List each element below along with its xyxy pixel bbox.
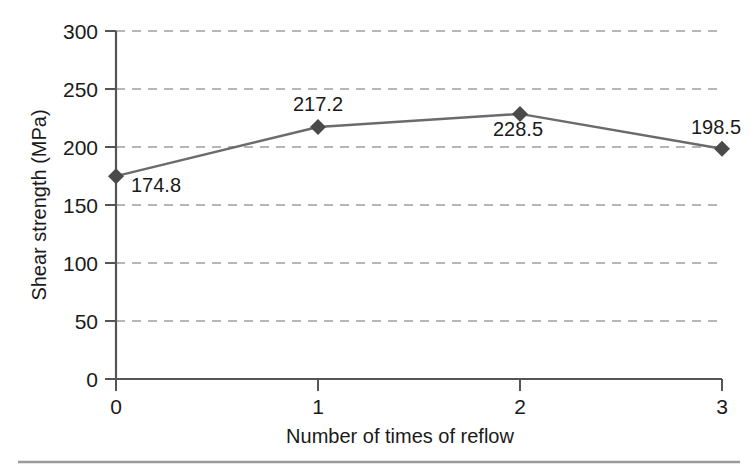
x-axis-title: Number of times of reflow bbox=[286, 425, 514, 447]
data-point-label-2: 228.5 bbox=[493, 118, 543, 140]
y-tick-label-0: 0 bbox=[86, 368, 98, 391]
data-point-label-1: 217.2 bbox=[293, 93, 343, 115]
line-chart: 300 250 200 150 100 50 0 0 1 2 3 174.8 2… bbox=[0, 0, 756, 473]
x-tick-label-1: 1 bbox=[312, 395, 324, 418]
chart-figure: 300 250 200 150 100 50 0 0 1 2 3 174.8 2… bbox=[0, 0, 756, 473]
y-tick-label-300: 300 bbox=[63, 20, 98, 43]
x-tick-label-0: 0 bbox=[110, 395, 122, 418]
y-tick-label-150: 150 bbox=[63, 194, 98, 217]
y-tick-label-200: 200 bbox=[63, 136, 98, 159]
y-tick-label-50: 50 bbox=[75, 310, 98, 333]
y-tick-label-100: 100 bbox=[63, 252, 98, 275]
x-tick-label-2: 2 bbox=[514, 395, 526, 418]
y-axis-title: Shear strength (MPa) bbox=[28, 109, 50, 300]
x-tick-label-3: 3 bbox=[716, 395, 728, 418]
y-tick-label-250: 250 bbox=[63, 78, 98, 101]
data-point-label-0: 174.8 bbox=[131, 174, 181, 196]
data-point-label-3: 198.5 bbox=[691, 116, 741, 138]
